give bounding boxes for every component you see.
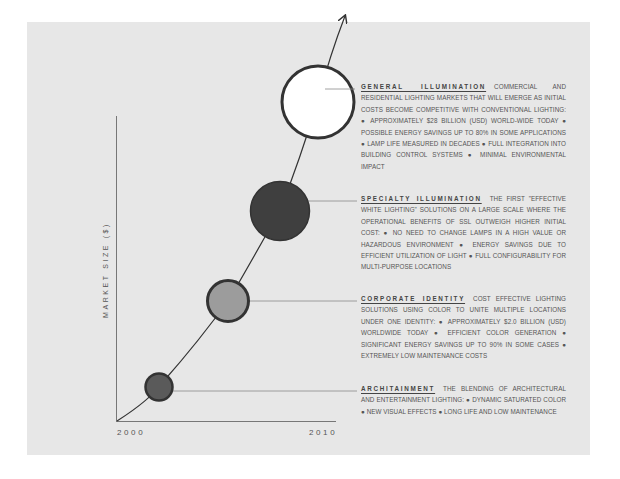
annotation-text: THE FIRST "EFFECTIVE WHITE LIGHTING" SOL…	[361, 195, 566, 270]
bubble-corporate-identity	[208, 281, 249, 322]
annotation-corporate-identity: CORPORATE IDENTITYCOST EFFECTIVE LIGHTIN…	[361, 293, 566, 361]
x-tick-2000: 2000	[117, 428, 145, 437]
y-axis-label: MARKET SIZE ($)	[102, 222, 109, 318]
annotation-text: COST EFFECTIVE LIGHTING SOLUTIONS USING …	[361, 295, 566, 359]
bubble-architainment	[146, 374, 173, 401]
annotation-title: CORPORATE IDENTITY	[361, 295, 465, 302]
x-tick-2010: 2010	[309, 428, 337, 437]
annotation-text: COMMERCIAL AND RESIDENTIAL LIGHTING MARK…	[361, 83, 566, 170]
annotation-title: GENERAL ILLUMINATION	[361, 83, 486, 90]
annotation-title: SPECIALTY ILLUMINATION	[361, 195, 482, 202]
bubble-general-illumination	[282, 66, 354, 138]
annotation-title: ARCHITAINMENT	[361, 385, 435, 392]
annotation-architainment: ARCHITAINMENTTHE BLENDING OF ARCHITECTUR…	[361, 383, 566, 417]
bubble-specialty-illumination	[251, 182, 310, 241]
annotation-specialty-illumination: SPECIALTY ILLUMINATIONTHE FIRST "EFFECTI…	[361, 193, 566, 273]
annotation-general-illumination: GENERAL ILLUMINATIONCOMMERCIAL AND RESID…	[361, 81, 566, 172]
